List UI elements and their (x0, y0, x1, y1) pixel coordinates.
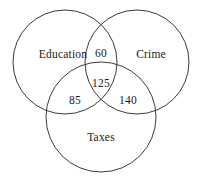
set-label-crime: Crime (136, 49, 166, 61)
venn-circles-canvas (0, 0, 202, 184)
set-label-education: Education (39, 49, 87, 61)
region-value-education-taxes: 85 (69, 95, 81, 107)
region-value-crime-taxes: 140 (119, 95, 137, 107)
venn-diagram: Education Crime Taxes 60 125 85 140 (0, 0, 202, 184)
region-value-education-crime: 60 (95, 48, 107, 60)
region-value-education-crime-taxes: 125 (92, 78, 110, 90)
set-label-taxes: Taxes (87, 132, 115, 144)
